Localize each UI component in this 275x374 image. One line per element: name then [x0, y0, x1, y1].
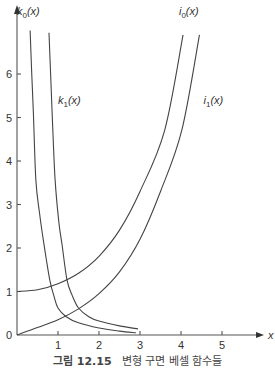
y-tick-label: 0 [6, 329, 12, 341]
x-tick-label: 4 [178, 339, 184, 350]
x-tick-label: 3 [137, 339, 143, 350]
curve-label: k1(x) [58, 94, 81, 109]
figure-caption-text: 변형 구면 베셀 함수들 [122, 355, 223, 368]
curve-label: i1(x) [204, 94, 224, 109]
curve-i0x [17, 35, 183, 292]
bessel-chart: x123450123456 k0(x)k1(x)i0(x)i1(x) [0, 0, 275, 350]
x-tick-label: 2 [96, 339, 102, 350]
curve-i1x [17, 35, 199, 335]
y-tick-label: 3 [6, 199, 12, 211]
axes: x123450123456 [6, 5, 274, 350]
x-axis-arrow-icon [256, 332, 264, 338]
curve-labels: k0(x)k1(x)i0(x)i1(x) [17, 5, 224, 109]
curve-k1x [49, 33, 138, 329]
curve-label: k0(x) [17, 5, 40, 20]
x-tick-label: 5 [219, 339, 225, 350]
curve-label: i0(x) [179, 5, 199, 20]
y-tick-label: 2 [6, 242, 12, 254]
y-tick-label: 1 [6, 286, 12, 298]
y-tick-label: 4 [6, 155, 12, 167]
curves [17, 31, 199, 336]
y-tick-label: 6 [6, 68, 12, 80]
x-tick-label: 1 [55, 339, 61, 350]
y-tick-label: 5 [6, 112, 12, 124]
figure-caption: 그림 12.15변형 구면 베셀 함수들 [0, 352, 275, 368]
figure-number: 그림 12.15 [53, 355, 112, 368]
x-axis-label: x [267, 329, 274, 341]
